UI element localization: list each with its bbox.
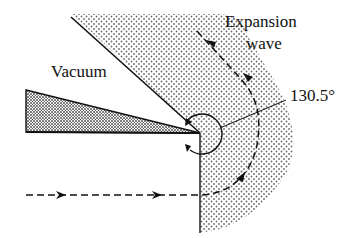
vacuum-label: Vacuum: [51, 62, 107, 82]
streamline-arrow-1: [56, 191, 66, 199]
wedge-bottom-edge: [26, 132, 200, 133]
expansion-wave-diagram: [0, 0, 359, 238]
turning-angle-label: 130.5°: [290, 86, 335, 106]
expansion-wave-label-line1: Expansion: [225, 12, 297, 32]
expansion-wave-label-line2: wave: [246, 34, 282, 54]
